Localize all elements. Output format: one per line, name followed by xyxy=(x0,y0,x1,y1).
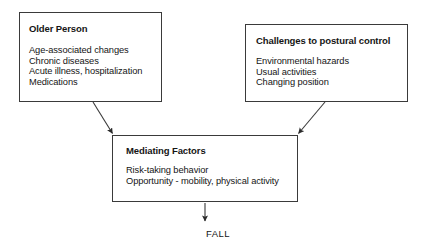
node-older-person-title: Older Person xyxy=(29,23,87,34)
node-mediating-title: Mediating Factors xyxy=(126,145,206,156)
node-item: Medications xyxy=(29,77,142,88)
node-item: Age-associated changes xyxy=(29,45,142,56)
node-item: Chronic diseases xyxy=(29,56,142,67)
node-item: Environmental hazards xyxy=(256,56,349,67)
node-older-person-items: Age-associated changes Chronic diseases … xyxy=(29,45,142,87)
node-mediating-factors: Mediating Factors Risk-taking behavior O… xyxy=(112,135,298,202)
node-challenges-to-postural-control: Challenges to postural control Environme… xyxy=(245,24,408,102)
node-item: Opportunity - mobility, physical activit… xyxy=(126,176,279,187)
node-older-person: Older Person Age-associated changes Chro… xyxy=(19,12,162,102)
diagram-canvas: Older Person Age-associated changes Chro… xyxy=(0,0,423,250)
node-item: Changing position xyxy=(256,77,349,88)
node-item: Risk-taking behavior xyxy=(126,165,279,176)
edge-challenges-to-mediating xyxy=(299,102,326,134)
edge-older-person-to-mediating xyxy=(93,102,113,134)
node-challenges-title: Challenges to postural control xyxy=(256,35,390,46)
node-item: Usual activities xyxy=(256,67,349,78)
node-challenges-items: Environmental hazards Usual activities C… xyxy=(256,56,349,88)
node-mediating-items: Risk-taking behavior Opportunity - mobil… xyxy=(126,165,279,186)
node-item: Acute illness, hospitalization xyxy=(29,66,142,77)
outcome-label-fall: FALL xyxy=(0,228,423,239)
